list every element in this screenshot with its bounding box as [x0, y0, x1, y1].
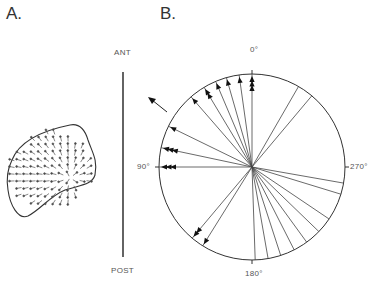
tissue-vector-field [7, 125, 96, 217]
figure-canvas [0, 0, 376, 288]
mean-vector-arrow [148, 97, 167, 112]
polar-plot [155, 70, 349, 264]
